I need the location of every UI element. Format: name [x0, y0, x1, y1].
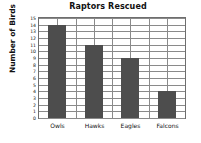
- y-axis-title: Number of Birds: [8, 1, 17, 77]
- bar-chart: Raptors Rescued Number of Birds 01234567…: [0, 0, 201, 143]
- y-axis-tick-label: 14: [24, 23, 36, 28]
- plot-area: [38, 17, 186, 119]
- y-axis-tick-label: 4: [24, 89, 36, 94]
- x-axis-tick-labels: OwlsHawksEaglesFalcons: [38, 122, 186, 136]
- y-axis-tick-label: 10: [24, 49, 36, 54]
- bar: [85, 45, 103, 118]
- gridline-vertical: [149, 18, 150, 118]
- y-axis-tick-label: 11: [24, 43, 36, 48]
- y-axis-tick-label: 6: [24, 76, 36, 81]
- y-axis-tick-label: 1: [24, 109, 36, 114]
- y-axis-tick-label: 7: [24, 69, 36, 74]
- y-axis-tick-label: 12: [24, 36, 36, 41]
- plot-inner: [39, 18, 185, 118]
- y-axis-tick-labels: 0123456789101112131415: [22, 17, 36, 119]
- y-axis-tick-label: 13: [24, 29, 36, 34]
- y-axis-tick-label: 9: [24, 56, 36, 61]
- y-axis-tick-label: 8: [24, 63, 36, 68]
- y-axis-tick-label: 2: [24, 103, 36, 108]
- x-axis-tick-label: Hawks: [76, 122, 113, 130]
- x-axis-tick-label: Falcons: [149, 122, 186, 130]
- y-axis-tick-label: 5: [24, 83, 36, 88]
- bar: [48, 25, 66, 118]
- y-axis-tick-label: 0: [24, 116, 36, 121]
- gridline-vertical: [112, 18, 113, 118]
- gridline-vertical: [76, 18, 77, 118]
- y-axis-tick-label: 15: [24, 16, 36, 21]
- bar: [121, 58, 139, 118]
- gridline-horizontal: [39, 118, 185, 119]
- bar: [158, 91, 176, 118]
- chart-title: Raptors Rescued: [30, 2, 186, 12]
- x-axis-tick-label: Owls: [39, 122, 76, 130]
- y-axis-tick-label: 3: [24, 96, 36, 101]
- x-axis-tick-label: Eagles: [112, 122, 149, 130]
